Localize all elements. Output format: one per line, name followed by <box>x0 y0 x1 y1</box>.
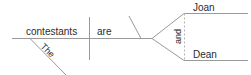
complement-word-first: Joan <box>193 2 215 13</box>
predicate-nominative-divider <box>129 16 141 39</box>
sentence-diagram: contestants are Joan Dean The and <box>0 0 251 75</box>
article-modifier-word: The <box>39 41 57 59</box>
complement-word-second: Dean <box>193 49 217 60</box>
subject-word: contestants <box>26 26 77 37</box>
conjunction-word: and <box>173 29 183 44</box>
verb-word: are <box>97 26 112 37</box>
sentence-diagram-canvas: contestants are Joan Dean The and <box>0 0 251 75</box>
